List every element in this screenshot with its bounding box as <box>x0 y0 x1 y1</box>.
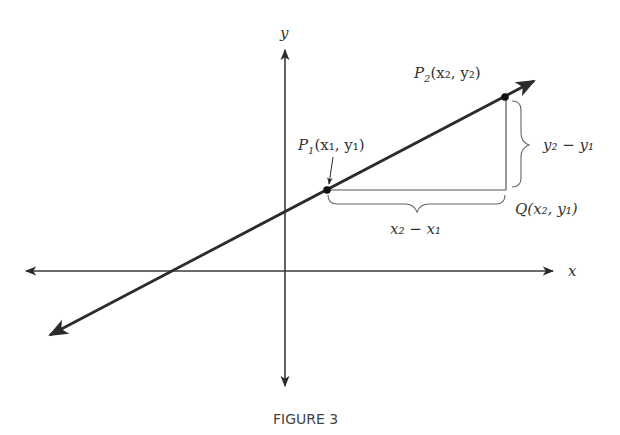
figure-caption: FIGURE 3 <box>273 411 338 427</box>
slope-diagram: x y P1(x₁, y₁) P2(x₂, y₂) x₂ − x₁ y₂ − y… <box>0 0 620 435</box>
vertical-brace <box>512 101 529 187</box>
p1-label: P1(x₁, y₁) <box>297 136 365 156</box>
y-axis-label: y <box>279 24 289 42</box>
x-axis-label: x <box>568 262 577 280</box>
horizontal-brace-label: x₂ − x₁ <box>390 220 441 238</box>
q-label: Q(x₂, y₁) <box>515 200 578 218</box>
point-p1 <box>323 186 331 194</box>
point-p2 <box>501 93 509 101</box>
sloped-line <box>50 81 534 335</box>
p2-label: P2(x₂, y₂) <box>413 64 481 84</box>
horizontal-brace <box>328 195 505 212</box>
vertical-brace-label: y₂ − y₁ <box>542 136 594 154</box>
p1-pointer-arrow <box>329 157 333 184</box>
